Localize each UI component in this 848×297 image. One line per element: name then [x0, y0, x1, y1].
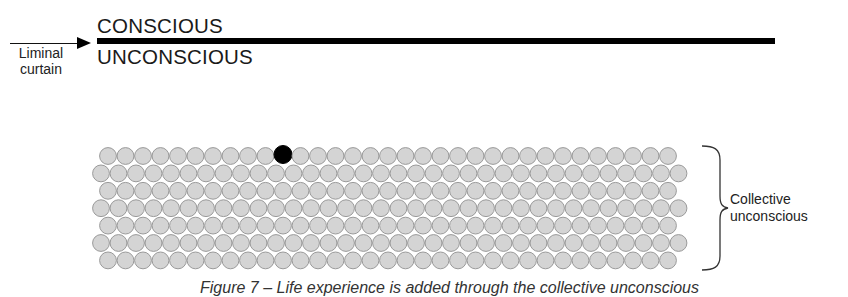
grid-circle [555, 148, 572, 165]
grid-circle [432, 252, 449, 269]
grid-circle [485, 182, 502, 199]
grid-circle [205, 182, 222, 199]
grid-circle [397, 148, 414, 165]
grid-circle [222, 148, 239, 165]
grid-circle [642, 252, 659, 269]
grid-circle [408, 165, 425, 182]
grid-circle [408, 235, 425, 252]
grid-circle [233, 165, 250, 182]
grid-circle [397, 182, 414, 199]
grid-circle [310, 252, 327, 269]
grid-circle [292, 148, 309, 165]
grid-circle [152, 182, 169, 199]
grid-circle [250, 200, 267, 217]
grid-circle [93, 235, 110, 252]
grid-circle [660, 217, 677, 234]
grid-circle [537, 217, 554, 234]
grid-circle [653, 165, 670, 182]
grid-circle [432, 217, 449, 234]
grid-circle [625, 148, 642, 165]
grid-circle [415, 148, 432, 165]
grid-circle [327, 148, 344, 165]
grid-circle [373, 165, 390, 182]
grid-circle [670, 165, 687, 182]
curly-brace-icon [700, 144, 730, 272]
grid-circle [618, 200, 635, 217]
grid-circle [390, 165, 407, 182]
grid-circle [110, 165, 127, 182]
grid-circle [233, 200, 250, 217]
grid-circle [135, 217, 152, 234]
grid-circle [128, 165, 145, 182]
grid-circle [275, 182, 292, 199]
grid-circle [653, 235, 670, 252]
grid-circle [415, 252, 432, 269]
grid-circle [415, 182, 432, 199]
grid-circle [170, 148, 187, 165]
grid-circle [275, 217, 292, 234]
grid-circle [345, 182, 362, 199]
grid-circle [240, 252, 257, 269]
grid-circle [555, 217, 572, 234]
grid-circle [250, 165, 267, 182]
grid-circle [660, 148, 677, 165]
grid-circle [495, 165, 512, 182]
grid-circle [478, 165, 495, 182]
grid-circle [478, 200, 495, 217]
grid-circle [250, 235, 267, 252]
grid-circle [93, 165, 110, 182]
grid-circle [460, 235, 477, 252]
grid-circle [443, 200, 460, 217]
grid-circle [450, 252, 467, 269]
grid-circle [135, 148, 152, 165]
grid-circle [467, 148, 484, 165]
grid-circle [180, 200, 197, 217]
grid-circle [145, 165, 162, 182]
grid-circle [310, 217, 327, 234]
grid-circle [502, 148, 519, 165]
grid-circle [338, 200, 355, 217]
grid-circle [145, 235, 162, 252]
grid-circle [583, 235, 600, 252]
grid-circle [257, 148, 274, 165]
grid-circle [338, 235, 355, 252]
grid-circle [555, 252, 572, 269]
grid-circle [537, 182, 554, 199]
grid-circle [425, 235, 442, 252]
grid-circle [110, 235, 127, 252]
grid-circle [450, 217, 467, 234]
grid-circle [607, 217, 624, 234]
grid-circle [93, 200, 110, 217]
grid-circle [450, 148, 467, 165]
grid-circle [117, 148, 134, 165]
grid-circle [513, 235, 530, 252]
grid-circle [187, 148, 204, 165]
grid-circle [485, 252, 502, 269]
grid-circle [117, 217, 134, 234]
grid-circle [327, 217, 344, 234]
grid-circle [625, 252, 642, 269]
grid-circle [257, 252, 274, 269]
grid-circle [513, 165, 530, 182]
grid-circle [537, 148, 554, 165]
grid-circle [590, 148, 607, 165]
grid-circle [303, 235, 320, 252]
grid-circle [187, 182, 204, 199]
grid-circle [233, 235, 250, 252]
grid-circle [310, 182, 327, 199]
grid-circle [310, 148, 327, 165]
grid-circle [215, 200, 232, 217]
grid-circle [572, 217, 589, 234]
grid-circle [170, 217, 187, 234]
grid-circle [362, 252, 379, 269]
grid-circle [485, 217, 502, 234]
grid-circle [285, 165, 302, 182]
grid-circle [625, 217, 642, 234]
grid-circle [338, 165, 355, 182]
grid-circle [502, 252, 519, 269]
grid-circle [478, 235, 495, 252]
grid-circle [502, 217, 519, 234]
grid-circle [163, 235, 180, 252]
grid-circle [152, 217, 169, 234]
grid-circle [327, 252, 344, 269]
